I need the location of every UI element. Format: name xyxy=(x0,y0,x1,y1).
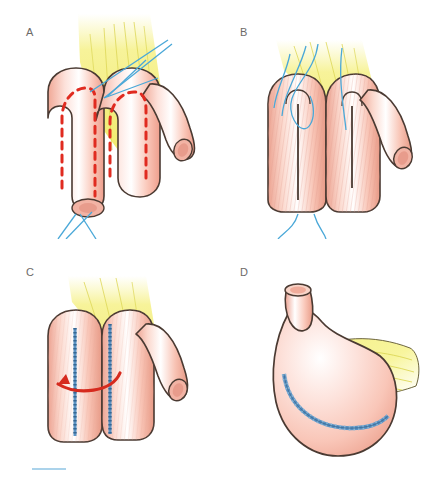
panel-d: D xyxy=(214,240,428,479)
panel-b: B xyxy=(214,0,428,239)
panel-a: A xyxy=(0,0,214,239)
panel-label-c: C xyxy=(26,266,34,278)
surgical-figure: A xyxy=(0,0,428,479)
scan-edge-blue-line xyxy=(32,468,66,470)
panel-label-b: B xyxy=(240,26,248,38)
reservoir-pouch xyxy=(273,308,396,456)
panel-c: C xyxy=(0,240,214,479)
open-bowel-stump xyxy=(72,199,104,217)
sutured-plate xyxy=(48,310,154,442)
panel-label-a: A xyxy=(26,26,34,38)
panel-label-d: D xyxy=(240,266,248,278)
